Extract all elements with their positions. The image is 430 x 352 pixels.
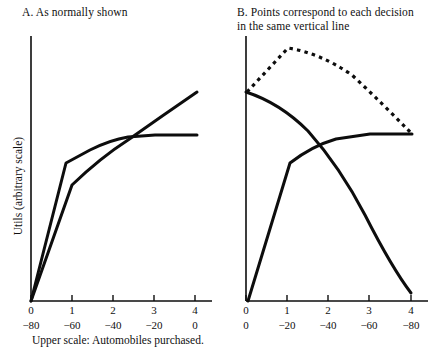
figure-container: A. As normally shown B. Points correspon… (0, 0, 430, 352)
plot-canvas (0, 0, 430, 352)
panel-a-upper-tick-label-1: 1 (57, 304, 87, 316)
panel-b-lower-tick-label-3: −60 (354, 319, 384, 331)
panel-a-upper-tick-label-3: 3 (139, 304, 169, 316)
panel-a-group (31, 36, 212, 301)
panel-b-lower-tick-label-1: −20 (272, 319, 302, 331)
panel-b-lower-tick-label-2: −40 (313, 319, 343, 331)
y-axis-label: Utils (arbitrary scale) (12, 116, 24, 256)
panel-b-upper-tick-label-2: 2 (313, 304, 343, 316)
panel-b-upper-tick-label-4: 4 (396, 304, 426, 316)
panel-a-upper-tick-label-0: 0 (16, 304, 46, 316)
panel-b-upper-tick-label-3: 3 (354, 304, 384, 316)
panel-b-dashed-curve (247, 48, 412, 134)
panel-b-upper-tick-label-1: 1 (272, 304, 302, 316)
panel-a-lower-tick-label-2: −40 (98, 319, 128, 331)
panel-a-lower-tick-label-3: −20 (139, 319, 169, 331)
panel-b-group (246, 36, 428, 301)
panel-a-rising-curve (31, 92, 197, 301)
panel-a-plateau-curve (31, 135, 197, 301)
panel-b-upper-tick-label-0: 0 (231, 304, 261, 316)
panel-b-lower-tick-label-4: −80 (396, 319, 426, 331)
panel-a-lower-tick-label-0: −80 (16, 319, 46, 331)
figure-caption: Upper scale: Automobiles purchased. (32, 334, 204, 346)
panel-a-lower-tick-label-1: −60 (57, 319, 87, 331)
panel-b-title: B. Points correspond to each decision in… (237, 6, 414, 33)
panel-a-lower-tick-label-4: 0 (180, 319, 210, 331)
panel-a-upper-tick-label-4: 4 (180, 304, 210, 316)
panel-b-declining-curve (246, 92, 411, 293)
panel-b-lower-tick-label-0: 0 (231, 319, 261, 331)
panel-a-title: A. As normally shown (22, 6, 128, 20)
panel-a-upper-tick-label-2: 2 (98, 304, 128, 316)
